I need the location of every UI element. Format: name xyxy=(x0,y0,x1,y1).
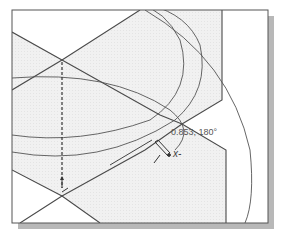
snap-indicator-icon: x- xyxy=(173,148,181,159)
coordinate-readout: 0.853, 180° xyxy=(171,127,217,137)
sketch-canvas[interactable] xyxy=(0,0,282,235)
